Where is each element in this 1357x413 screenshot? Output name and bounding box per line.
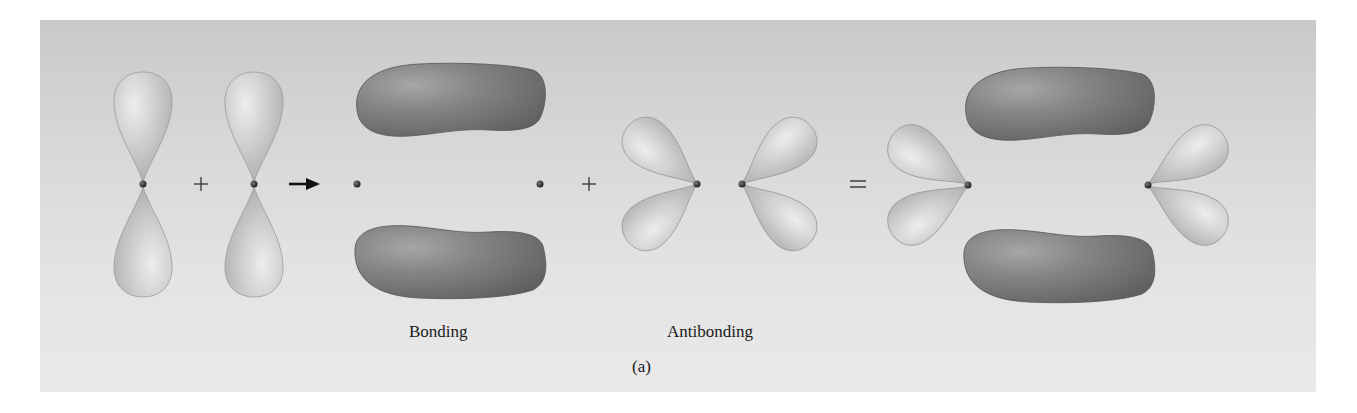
bonding-label: Bonding [409, 322, 468, 342]
p-orbital-2 [225, 72, 283, 297]
nucleus-icon [537, 181, 544, 188]
nucleus-icon [251, 181, 258, 188]
p-orbital-1 [114, 72, 172, 297]
combined-orbitals [879, 67, 1237, 302]
bonding-orbital [354, 63, 546, 298]
antibonding-orbital [613, 108, 827, 261]
nucleus-icon [694, 181, 701, 188]
nucleus-icon [140, 181, 147, 188]
nucleus-icon [1145, 182, 1152, 189]
panel-label: (a) [632, 357, 651, 377]
orbital-diagram [0, 0, 1357, 413]
equals-operator [850, 181, 866, 187]
plus-operator-2 [582, 177, 596, 191]
antibonding-label: Antibonding [667, 322, 753, 342]
plus-operator-1 [194, 177, 208, 191]
arrow-icon [289, 178, 320, 190]
nucleus-icon [965, 182, 972, 189]
nucleus-icon [739, 181, 746, 188]
nucleus-icon [354, 181, 361, 188]
